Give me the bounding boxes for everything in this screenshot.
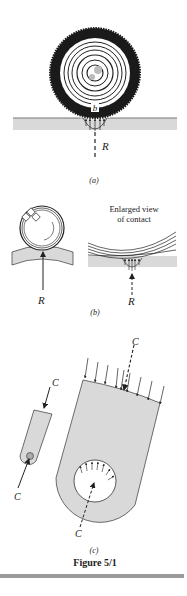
caption-rule — [0, 574, 184, 578]
small-link-force-top: C — [52, 377, 59, 388]
contact-width-label: b — [93, 103, 98, 113]
enlarged-pressure — [122, 258, 142, 271]
reaction-label: R — [101, 140, 109, 152]
figure-canvas: b R (a) R Enlarged view — [0, 0, 187, 596]
reaction-label: R — [37, 294, 45, 306]
panel-c: C C C — [14, 336, 164, 555]
panel-b: R Enlarged view of contact R (b) — [12, 204, 177, 317]
small-link-force-bottom: C — [14, 491, 21, 502]
small-link: C C — [14, 377, 59, 502]
panel-a-label: (a) — [89, 176, 99, 185]
panel-c-label: (c) — [90, 546, 99, 555]
pin-force-label: C — [75, 528, 82, 539]
top-force-arrow — [124, 345, 134, 390]
panel-a: b R (a) — [13, 27, 177, 185]
figure-caption: Figure 5/1 — [73, 557, 116, 568]
enlarged-view-title-2: of contact — [117, 214, 151, 224]
ball-icon — [20, 206, 64, 250]
top-force-label: C — [132, 336, 139, 347]
large-link: C C — [56, 336, 164, 539]
enlarged-reaction-label: R — [127, 295, 135, 307]
enlarged-ball-arcs — [88, 232, 176, 258]
enlarged-view-title-1: Enlarged view — [109, 204, 159, 214]
panel-b-label: (b) — [90, 308, 100, 317]
